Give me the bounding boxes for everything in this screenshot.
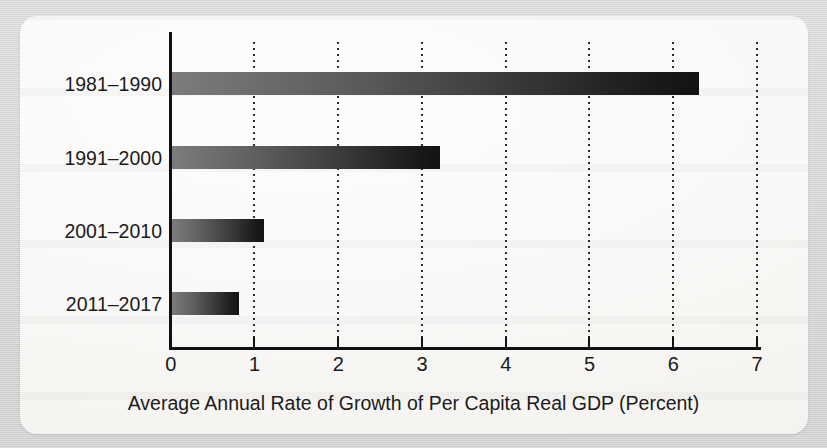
x-tick-mark-4 bbox=[505, 337, 507, 348]
x-tick-mark-5 bbox=[588, 337, 590, 348]
bar-chart-plot-area: 01234567 1981–19901991–20002001–20102011… bbox=[0, 0, 827, 448]
bar-2011–2017 bbox=[172, 292, 239, 315]
x-tick-label-6: 6 bbox=[653, 353, 693, 376]
x-tick-mark-7 bbox=[756, 337, 758, 348]
x-tick-mark-3 bbox=[421, 337, 423, 348]
x-tick-mark-0 bbox=[170, 337, 172, 348]
x-tick-label-4: 4 bbox=[486, 353, 526, 376]
bar-2001–2010 bbox=[172, 219, 264, 242]
x-tick-mark-1 bbox=[253, 337, 255, 348]
x-tick-label-5: 5 bbox=[569, 353, 609, 376]
category-label-2011–2017: 2011–2017 bbox=[0, 293, 162, 316]
category-label-1991–2000: 1991–2000 bbox=[0, 147, 162, 170]
x-tick-label-3: 3 bbox=[402, 353, 442, 376]
category-label-1981–1990: 1981–1990 bbox=[0, 73, 162, 96]
x-tick-label-0: 0 bbox=[151, 353, 191, 376]
bar-1991–2000 bbox=[172, 146, 440, 169]
bar-1981–1990 bbox=[172, 72, 700, 95]
gridline-7 bbox=[756, 42, 758, 338]
x-axis-title: Average Annual Rate of Growth of Per Cap… bbox=[0, 392, 827, 415]
x-tick-mark-2 bbox=[337, 337, 339, 348]
x-tick-label-1: 1 bbox=[234, 353, 274, 376]
x-tick-label-2: 2 bbox=[318, 353, 358, 376]
category-label-2001–2010: 2001–2010 bbox=[0, 220, 162, 243]
x-tick-label-7: 7 bbox=[737, 353, 777, 376]
x-tick-mark-6 bbox=[672, 337, 674, 348]
